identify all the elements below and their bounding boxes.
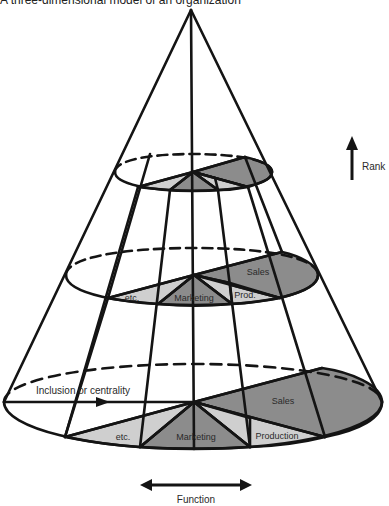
function-label: Function bbox=[177, 494, 215, 505]
bottom-level bbox=[65, 368, 382, 449]
cone-left-edge bbox=[4, 10, 191, 402]
bottom-marketing-label: Marketing bbox=[176, 432, 216, 442]
rib-5 bbox=[108, 154, 150, 298]
rank-arrow-icon bbox=[346, 136, 358, 180]
organization-cone-diagram: Rank Function Inclusion or centrality Sa… bbox=[0, 0, 389, 506]
middle-production-label: Prod. bbox=[234, 290, 256, 300]
middle-etc-label: etc. bbox=[125, 293, 140, 303]
function-arrow-icon bbox=[140, 479, 252, 491]
cone-center-axis bbox=[191, 10, 194, 449]
inclusion-arrowhead-icon bbox=[96, 397, 110, 407]
bottom-production-label: Production bbox=[255, 431, 298, 441]
middle-sales-label: Sales bbox=[247, 267, 270, 277]
middle-marketing-label: Marketing bbox=[174, 293, 214, 303]
bottom-etc-label: etc. bbox=[116, 432, 131, 442]
bottom-sales-label: Sales bbox=[272, 396, 295, 406]
rank-label: Rank bbox=[362, 161, 386, 172]
inclusion-label: Inclusion or centrality bbox=[36, 385, 130, 396]
rib-back-left bbox=[65, 298, 108, 437]
